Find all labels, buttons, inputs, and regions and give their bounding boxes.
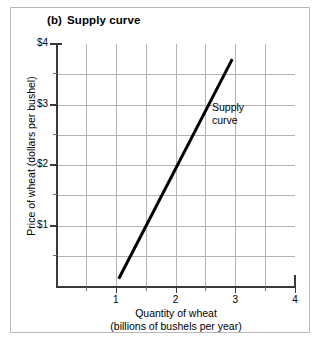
x-axis-title: Quantity of wheat (billions of bushels p… — [46, 307, 306, 332]
supply-curve-label: Supply curve — [212, 101, 244, 126]
supply-curve-line — [0, 0, 325, 342]
supply-curve-figure: (b)Supply curve $4$3$2$11234 Supply curv… — [0, 0, 325, 342]
x-axis-title-line1: Quantity of wheat — [46, 307, 306, 320]
y-axis-title: Price of wheat (dollars per bushel) — [25, 46, 37, 266]
x-axis-title-line2: (billions of bushels per year) — [46, 320, 306, 333]
supply-curve-label-line2: curve — [212, 114, 244, 127]
supply-curve-segment — [119, 59, 233, 279]
supply-curve-label-line1: Supply — [212, 101, 244, 114]
